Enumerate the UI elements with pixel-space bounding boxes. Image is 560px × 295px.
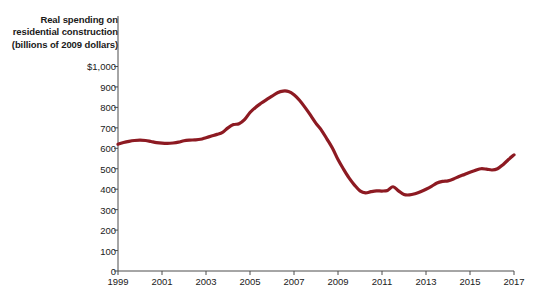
- chart-container: Real spending on residential constructio…: [0, 0, 560, 295]
- y-axis-ticks: [114, 67, 118, 272]
- chart-plot-area: [0, 0, 560, 295]
- data-series-line: [118, 91, 514, 195]
- x-axis-ticks: [118, 271, 514, 275]
